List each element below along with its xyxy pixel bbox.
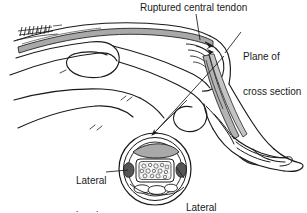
cross-section-inset — [119, 133, 191, 205]
skin-crease-marks — [60, 70, 132, 130]
label-lateral-band-right: Lateral band — [186, 179, 217, 212]
lateral-band-right-section — [176, 163, 186, 177]
label-plane-line2: cross section — [243, 86, 301, 98]
label-plane-of-cross-section: Plane of cross section — [243, 28, 301, 120]
illustration-figure: Ruptured central tendon Plane of cross s… — [0, 0, 307, 212]
label-lateral-band-left: Lateral band — [76, 152, 107, 212]
label-lateral-band-left-line1: Lateral — [76, 175, 107, 187]
middle-phalanx-bone — [113, 46, 210, 132]
label-lateral-band-right-line1: Lateral — [186, 202, 217, 212]
label-ruptured-central-tendon: Ruptured central tendon — [140, 2, 247, 14]
label-lateral-band-left-line2: band — [76, 210, 107, 213]
finger-volar-outline — [10, 53, 164, 128]
label-plane-line1: Plane of — [243, 51, 301, 63]
leader-plane-of-section — [225, 32, 241, 53]
